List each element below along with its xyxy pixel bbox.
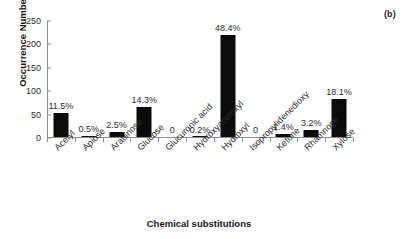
- y-axis-line: [47, 21, 48, 138]
- bar-value-label: 14.3%: [132, 95, 158, 105]
- bar-value-label: 11.5%: [48, 101, 73, 111]
- y-tick-label: 50: [31, 110, 47, 120]
- y-tick-mark: [47, 67, 51, 68]
- y-tick-label: 200: [26, 39, 47, 49]
- bar-value-label: 3.2%: [301, 118, 322, 128]
- x-tick-mark: [47, 138, 48, 142]
- x-axis-title: Chemical substitutions: [44, 218, 354, 229]
- chart-figure: (b) Occurrence Numbers 050100150200250 1…: [0, 0, 402, 239]
- x-tick-mark: [242, 138, 243, 142]
- bar-value-label: 0: [253, 125, 258, 135]
- x-tick-mark: [75, 138, 76, 142]
- x-tick-mark: [130, 138, 131, 142]
- x-tick-mark: [214, 138, 215, 142]
- x-tick-mark: [297, 138, 298, 142]
- x-tick-mark: [353, 138, 354, 142]
- y-tick-mark: [47, 44, 51, 45]
- x-tick-mark: [270, 138, 271, 142]
- panel-label: (b): [384, 9, 396, 19]
- bar-value-label: 18.1%: [326, 87, 352, 97]
- x-tick-mark: [186, 138, 187, 142]
- y-tick-label: 250: [26, 16, 47, 26]
- bar-value-label: 48.4%: [215, 23, 241, 33]
- y-tick-label: 100: [26, 86, 47, 96]
- y-tick-mark: [47, 114, 51, 115]
- y-tick-mark: [47, 91, 51, 92]
- x-tick-mark: [103, 138, 104, 142]
- y-tick-label: 150: [26, 63, 47, 73]
- y-tick-mark: [47, 21, 51, 22]
- y-tick-label: 0: [36, 133, 47, 143]
- x-tick-mark: [325, 138, 326, 142]
- x-tick-mark: [158, 138, 159, 142]
